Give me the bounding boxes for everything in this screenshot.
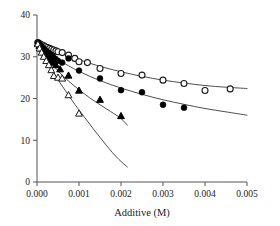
marker-circle-open (76, 59, 82, 65)
marker-circle-open (59, 50, 65, 56)
x-axis-ticks: 0.0000.0010.0020.0030.0040.005 (26, 182, 258, 199)
y-tick-label: 40 (21, 10, 31, 20)
marker-circle-open (97, 65, 103, 71)
marker-circle-filled (66, 56, 72, 62)
marker-circle-open (160, 77, 166, 83)
x-tick-label: 0.003 (152, 189, 174, 199)
marker-circle-open (118, 70, 124, 76)
marker-circle-open (202, 88, 208, 94)
marker-circle-filled (139, 89, 145, 95)
y-tick-label: 20 (21, 94, 31, 104)
y-tick-label: 10 (21, 136, 31, 146)
marker-circle-filled (76, 68, 82, 74)
data-markers (34, 40, 233, 119)
x-tick-label: 0.004 (194, 189, 216, 199)
marker-circle-filled (118, 87, 124, 93)
x-tick-label: 0.002 (110, 189, 132, 199)
marker-circle-filled (97, 76, 103, 82)
marker-circle-open (84, 60, 90, 66)
x-axis-title: Additive (M) (114, 207, 170, 219)
marker-circle-filled (181, 105, 187, 111)
marker-triangle-open (65, 92, 72, 98)
marker-circle-filled (160, 102, 166, 108)
marker-triangle-filled (65, 72, 72, 78)
marker-circle-filled (59, 60, 65, 66)
x-tick-label: 0.001 (68, 189, 90, 199)
marker-triangle-filled (97, 96, 104, 102)
y-tick-label: 0 (25, 177, 30, 187)
marker-circle-open (139, 72, 145, 78)
marker-circle-open (227, 86, 233, 92)
x-tick-label: 0.000 (26, 189, 48, 199)
chart-figure: 010203040 0.0000.0010.0020.0030.0040.005… (0, 0, 280, 226)
y-axis-ticks: 010203040 (21, 10, 38, 187)
marker-triangle-filled (118, 112, 125, 118)
scatter-plot: 010203040 0.0000.0010.0020.0030.0040.005… (0, 0, 280, 226)
marker-circle-open (181, 80, 187, 86)
x-tick-label: 0.005 (236, 189, 258, 199)
y-tick-label: 30 (21, 52, 31, 62)
